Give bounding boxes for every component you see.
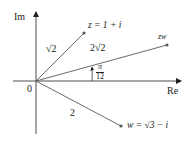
vector-z <box>36 33 84 81</box>
point-w-label: w = √3 − i <box>127 121 168 131</box>
point-zw <box>165 43 168 46</box>
real-axis-label: Re <box>167 86 178 96</box>
angle-label: π 12 <box>96 63 104 81</box>
point-z-label: z = 1 + i <box>88 21 121 31</box>
point-z <box>82 31 85 34</box>
angle-numerator: π <box>97 63 103 71</box>
vector-w <box>36 81 121 126</box>
modulus-zw-label: 2√2 <box>90 43 106 53</box>
origin-label: 0 <box>27 84 32 94</box>
modulus-z-label: √2 <box>46 44 57 54</box>
modulus-w-label: 2 <box>70 108 75 118</box>
point-zw-label: zw <box>158 33 166 41</box>
complex-plane-diagram: Im Re 0 z = 1 + i √2 zw 2√2 w = √3 − i 2… <box>0 0 191 141</box>
angle-denominator: 12 <box>96 73 104 81</box>
imag-axis-label: Im <box>14 12 25 22</box>
point-w <box>119 124 122 127</box>
